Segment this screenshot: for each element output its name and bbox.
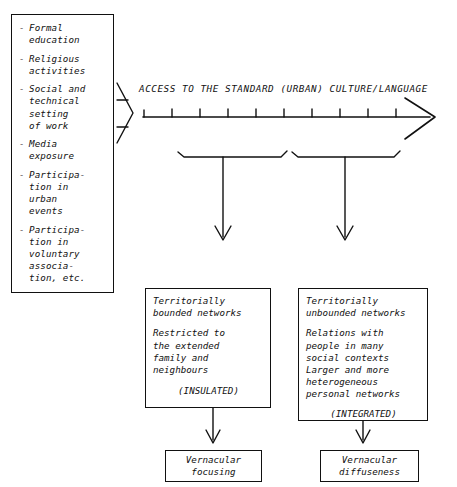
spacer	[153, 319, 264, 327]
list-item: - Formal education	[19, 22, 108, 46]
bullet-dash: -	[19, 22, 29, 34]
mid-box-heading: Territorially unbounded networks	[306, 295, 421, 319]
mid-box-insulated: Territorially bounded networks Restricte…	[145, 288, 271, 408]
end-box-label: Vernacular focusing	[186, 454, 241, 478]
connector-right-outcome	[356, 421, 370, 443]
chevron-arrow-icon	[117, 83, 133, 143]
list-item: - Participa- tion in urban events	[19, 169, 108, 217]
axis-title: ACCESS TO THE STANDARD (URBAN) CULTURE/L…	[139, 83, 428, 94]
list-item-label: Participa- tion in urban events	[29, 169, 108, 217]
list-item: - Social and technical setting of work	[19, 83, 108, 131]
mid-box-body: Relations with people in many social con…	[306, 327, 421, 400]
list-item: - Religious activities	[19, 53, 108, 77]
list-item-label: Social and technical setting of work	[29, 83, 108, 131]
bullet-dash: -	[19, 83, 29, 95]
bullet-dash: -	[19, 53, 29, 65]
list-item: - Media exposure	[19, 138, 108, 162]
mid-box-body: Restricted to the extended family and ne…	[153, 327, 264, 376]
diagram-canvas: - Formal education - Religious activitie…	[0, 0, 457, 487]
list-item-label: Participa- tion in voluntary associa- ti…	[29, 224, 108, 284]
end-box-vernacular-focusing: Vernacular focusing	[165, 450, 262, 482]
end-box-vernacular-diffuseness: Vernacular diffuseness	[320, 450, 419, 482]
low-access-bracket	[178, 151, 287, 240]
inputs-list: - Formal education - Religious activitie…	[19, 22, 108, 284]
bullet-dash: -	[19, 138, 29, 150]
list-item-label: Formal education	[29, 22, 108, 46]
bullet-dash: -	[19, 224, 29, 236]
list-item: - Participa- tion in voluntary associa- …	[19, 224, 108, 284]
high-access-bracket	[292, 151, 400, 240]
list-item-label: Media exposure	[29, 138, 108, 162]
mid-box-integrated: Territorially unbounded networks Relatio…	[298, 288, 428, 421]
spacer	[306, 319, 421, 327]
mid-box-tag: (INSULATED)	[153, 385, 264, 397]
list-item-label: Religious activities	[29, 53, 108, 77]
inputs-box: - Formal education - Religious activitie…	[11, 14, 114, 293]
connector-left-outcome	[206, 408, 220, 443]
access-axis	[143, 98, 435, 139]
end-box-label: Vernacular diffuseness	[339, 454, 400, 478]
bullet-dash: -	[19, 169, 29, 181]
mid-box-tag: (INTEGRATED)	[306, 408, 421, 420]
mid-box-heading: Territorially bounded networks	[153, 295, 264, 319]
